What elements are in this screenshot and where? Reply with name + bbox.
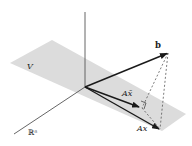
label-rn: ℝⁿ — [28, 128, 37, 137]
projection-diagram: V ℝⁿ b Ax̄ Ax — [0, 0, 192, 146]
label-axbar: Ax̄ — [121, 89, 133, 98]
label-b: b — [155, 40, 161, 50]
label-ax: Ax — [136, 124, 148, 133]
rn-axis — [14, 87, 85, 134]
plane-v — [10, 40, 186, 131]
